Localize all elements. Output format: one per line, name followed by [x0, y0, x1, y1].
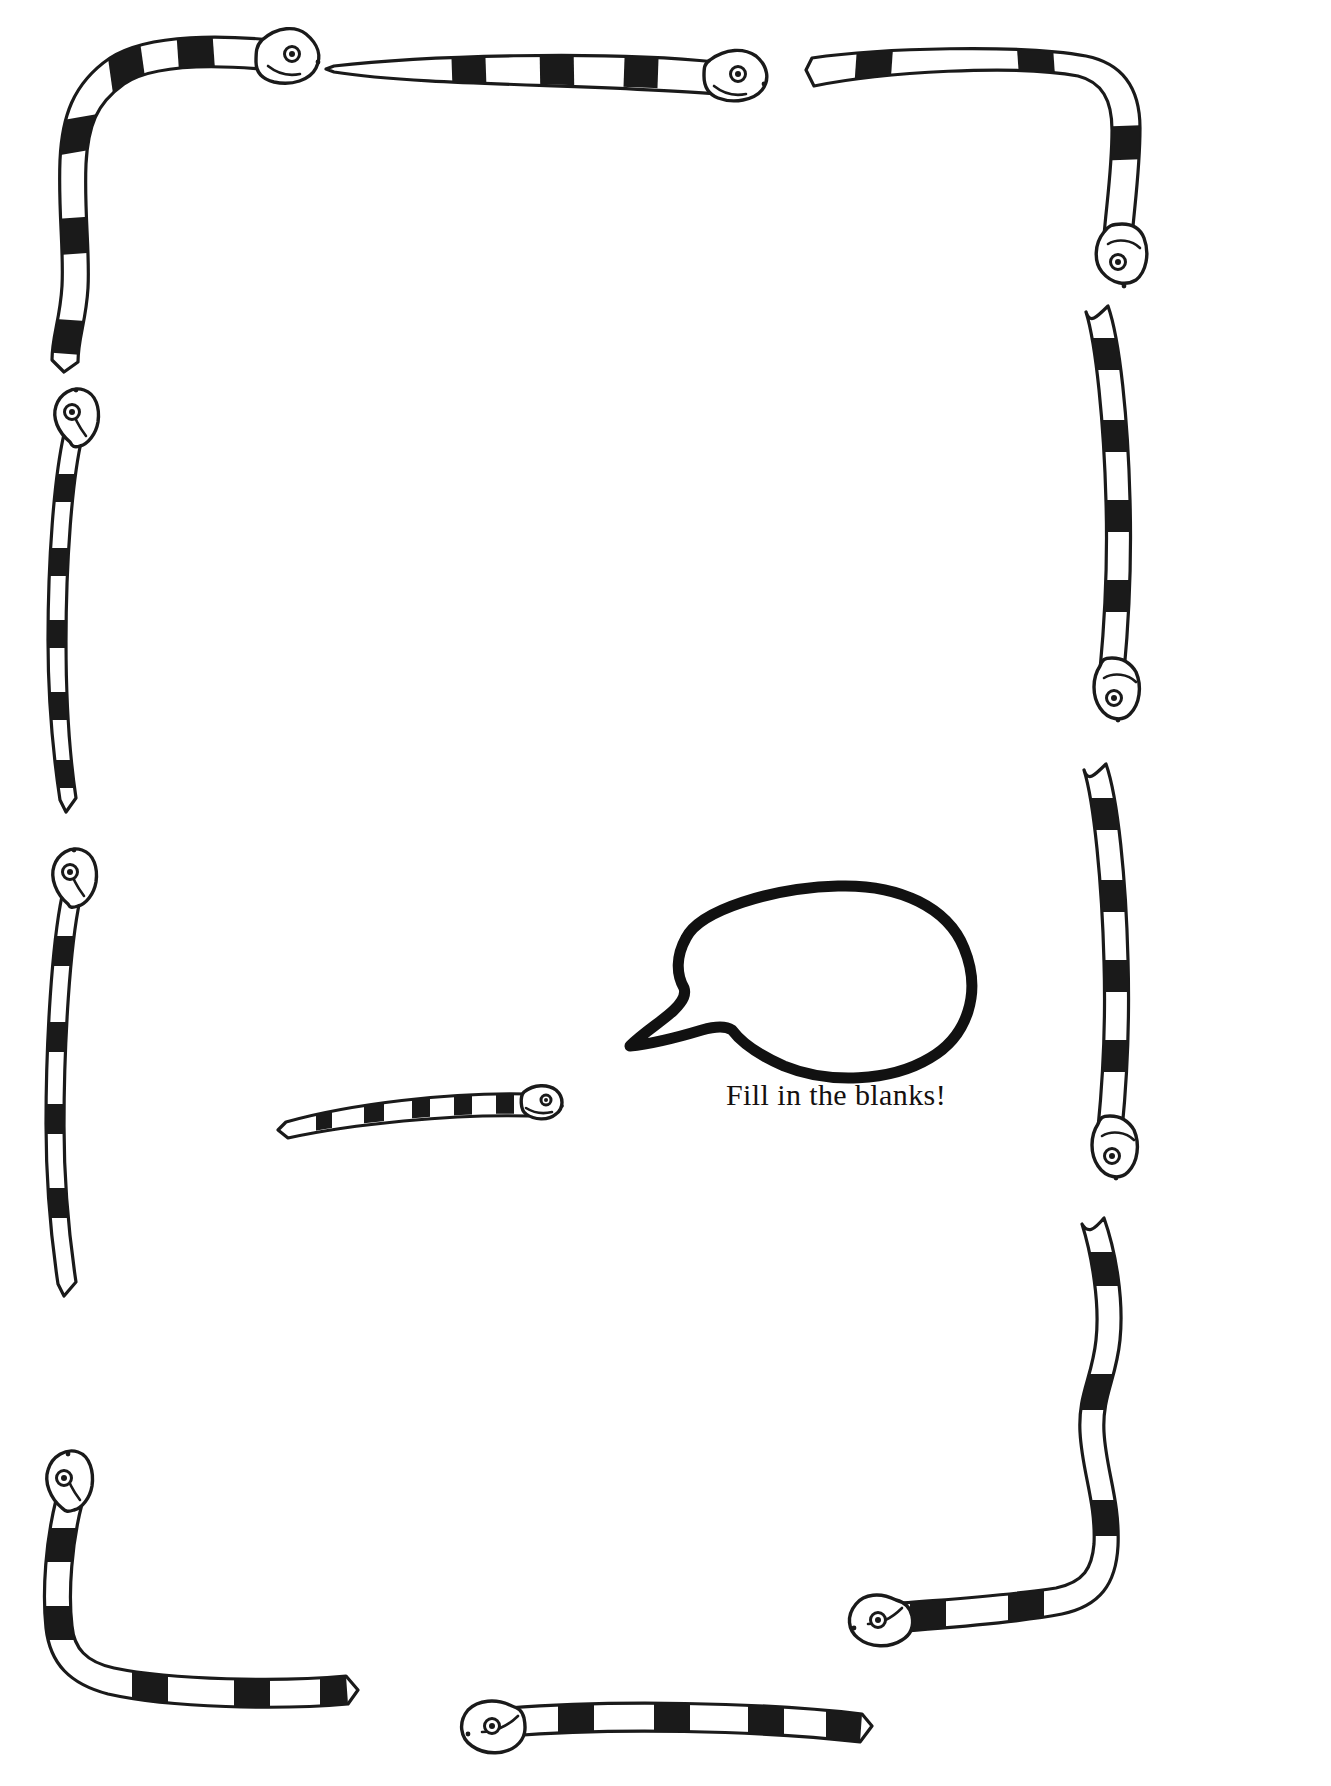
worksheet-page: Fill in the blanks!	[0, 0, 1331, 1786]
speech-bubble-graphic	[0, 0, 1331, 1786]
speech-bubble-text: Fill in the blanks!	[702, 1080, 970, 1110]
speech-bubble-outline	[630, 886, 972, 1078]
